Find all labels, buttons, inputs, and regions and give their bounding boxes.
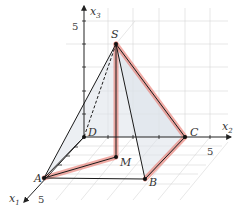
point-A [42,176,46,180]
label-D: D [87,126,97,139]
x1-tick-5: 5 [38,194,44,205]
label-C: C [190,126,199,139]
point-B [143,177,147,181]
x1-axis-label: x1 [9,192,20,207]
label-S: S [111,28,119,41]
point-C [183,135,187,139]
x2-tick-5: 5 [207,146,213,157]
pyramid-diagram: S A B C D M x3 x2 x1 5 5 5 [0,0,244,219]
x3-axis-label: x3 [90,5,101,20]
edge-AB [44,178,145,179]
point-S [114,42,118,46]
label-M: M [119,156,132,169]
point-M [114,155,118,159]
x2-axis-label: x2 [222,120,233,135]
x3-tick-5: 5 [72,21,78,32]
point-D [82,135,86,139]
label-B: B [148,176,157,189]
label-A: A [33,172,42,185]
